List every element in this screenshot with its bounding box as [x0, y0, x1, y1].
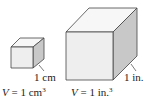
small-cube-edge-label: 1 cm: [34, 72, 56, 83]
large-cube-edge-label: 1 in.: [124, 72, 144, 83]
large-cube-edge-pointer: [131, 64, 136, 71]
volume-exponent: 3: [109, 86, 113, 94]
large-cube: [66, 8, 137, 80]
volume-exponent: 3: [42, 86, 46, 94]
large-cube-front-face: [66, 32, 113, 80]
small-cube: [11, 38, 44, 71]
small-cube-volume: V = 1 cm3: [2, 87, 46, 98]
small-cube-front-face: [11, 47, 33, 68]
volume-variable: V: [71, 86, 78, 98]
volume-variable: V: [2, 86, 9, 98]
volume-equation: = 1 cm: [9, 86, 42, 98]
large-cube-volume: V = 1 in.3: [71, 87, 113, 98]
volume-equation: = 1 in.: [78, 86, 109, 98]
